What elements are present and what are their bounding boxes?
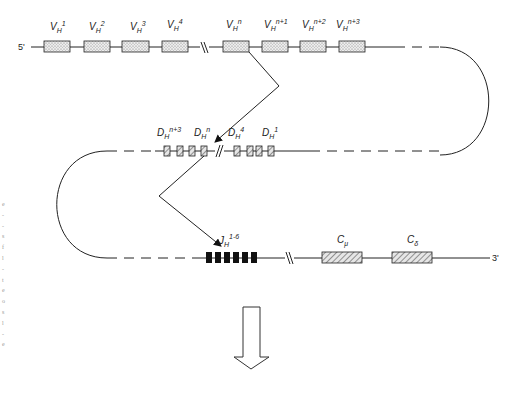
d4-label: DH4 bbox=[228, 126, 244, 140]
v-segment-n3 bbox=[339, 41, 365, 52]
vdj-diagram: 5' VH1 VH2 VH3 VH4 VHn VHn+1 VHn+2 VHn+3 bbox=[0, 0, 519, 400]
svg-text:s: s bbox=[2, 309, 5, 315]
d-segment-1 bbox=[268, 146, 274, 156]
down-arrow-icon bbox=[234, 307, 269, 369]
c-mu-segment bbox=[322, 252, 362, 263]
d-segment bbox=[164, 146, 170, 156]
break-mark-icon bbox=[200, 42, 209, 53]
d-segment-4 bbox=[234, 146, 240, 156]
d-segment bbox=[189, 146, 195, 156]
vn2-label: VHn+2 bbox=[302, 18, 326, 32]
v-segment-n2 bbox=[300, 41, 326, 52]
c-mu-label: Cμ bbox=[337, 234, 348, 248]
j-segment bbox=[215, 252, 221, 263]
break-mark-icon bbox=[215, 145, 224, 157]
svg-text:e: e bbox=[2, 201, 5, 207]
svg-text:s: s bbox=[2, 233, 5, 239]
v2-label: VH2 bbox=[89, 20, 105, 34]
d-segment bbox=[256, 146, 262, 156]
vn3-label: VHn+3 bbox=[336, 18, 360, 32]
j-segment bbox=[242, 252, 248, 263]
d-row: DHn+3 DHn DH4 DH1 bbox=[57, 126, 440, 258]
j-label: JH1-6 bbox=[218, 233, 239, 248]
svg-text:f: f bbox=[2, 244, 4, 250]
break-mark-icon bbox=[285, 252, 294, 264]
v-to-d-arrow bbox=[215, 52, 279, 142]
vn-label: VHn bbox=[226, 18, 242, 32]
svg-text:-: - bbox=[2, 212, 4, 218]
v4-label: VH4 bbox=[167, 18, 183, 32]
cropped-margin-text: e - - s f l - t e o s l - e bbox=[2, 201, 5, 347]
v-segment-1 bbox=[44, 41, 70, 52]
c-delta-label: Cδ bbox=[407, 234, 418, 247]
svg-text:-: - bbox=[2, 266, 4, 272]
d1-label: DH1 bbox=[262, 126, 278, 140]
five-prime-label: 5' bbox=[18, 42, 25, 52]
j-segment bbox=[233, 252, 239, 263]
j-segment bbox=[224, 252, 230, 263]
d-segment bbox=[247, 146, 253, 156]
three-prime-label: 3' bbox=[492, 253, 499, 263]
vn1-label: VHn+1 bbox=[264, 18, 288, 32]
svg-text:l: l bbox=[2, 255, 4, 261]
j-segment bbox=[251, 252, 257, 263]
v-row: 5' VH1 VH2 VH3 VH4 VHn VHn+1 VHn+2 VHn+3 bbox=[18, 18, 489, 155]
d-to-j-arrow bbox=[159, 156, 221, 246]
svg-text:e: e bbox=[2, 287, 5, 293]
v-segment-3 bbox=[122, 41, 149, 52]
v-segment-4 bbox=[162, 41, 188, 52]
v-segment-n bbox=[223, 41, 249, 52]
c-delta-segment bbox=[392, 252, 432, 263]
v3-label: VH3 bbox=[130, 20, 146, 34]
svg-text:e: e bbox=[2, 341, 5, 347]
dn3-label: DHn+3 bbox=[157, 126, 181, 140]
svg-text:-: - bbox=[2, 223, 4, 229]
jc-row: 3' JH1-6 Cμ Cδ bbox=[107, 233, 499, 264]
svg-text:l: l bbox=[2, 320, 4, 326]
svg-text:-: - bbox=[2, 331, 4, 337]
d-segment-n bbox=[201, 146, 207, 156]
v1-label: VH1 bbox=[50, 20, 66, 34]
svg-text:t: t bbox=[2, 277, 4, 283]
v-segment-n1 bbox=[262, 41, 288, 52]
j-segment bbox=[206, 252, 212, 263]
dn-label: DHn bbox=[194, 126, 210, 140]
svg-text:o: o bbox=[2, 298, 5, 304]
v-segment-2 bbox=[84, 41, 110, 52]
d-segment bbox=[177, 146, 183, 156]
